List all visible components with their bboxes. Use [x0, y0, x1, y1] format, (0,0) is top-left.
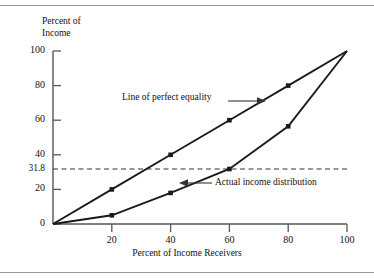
- x-tick-label-80: 80: [273, 234, 303, 245]
- equality-annotation-arrow: [228, 97, 266, 105]
- y-tick-label-0: 0: [5, 217, 45, 228]
- y-axis-title: Percent of Income: [42, 16, 81, 39]
- chart-figure: Percent of Income 100 80 60 40 31.8 20 0…: [0, 0, 374, 279]
- annotation-perfect-equality: Line of perfect equality: [122, 92, 211, 102]
- y-tick-label-80: 80: [5, 79, 45, 90]
- actual-annotation-arrow: [179, 179, 212, 187]
- x-tick-label-60: 60: [214, 234, 244, 245]
- y-tick-label-100: 100: [5, 44, 45, 55]
- x-tick-label-40: 40: [156, 234, 186, 245]
- x-tick-label-100: 100: [332, 234, 362, 245]
- lorenz-curve-plot: [0, 0, 374, 279]
- x-tick-label-20: 20: [97, 234, 127, 245]
- y-axis-title-line2: Income: [42, 28, 81, 40]
- annotation-actual-distribution: Actual income distribution: [215, 177, 317, 187]
- y-tick-marks: [53, 51, 61, 224]
- x-axis-title: Percent of Income Receivers: [0, 248, 374, 258]
- y-tick-label-60: 60: [5, 113, 45, 124]
- y-axis-title-line1: Percent of: [42, 16, 81, 28]
- y-tick-label-20: 20: [5, 182, 45, 193]
- perfect-equality-line: [53, 51, 347, 224]
- y-tick-label-40: 40: [5, 148, 45, 159]
- x-tick-marks: [112, 224, 347, 232]
- y-tick-label-31-8: 31.8: [5, 163, 45, 173]
